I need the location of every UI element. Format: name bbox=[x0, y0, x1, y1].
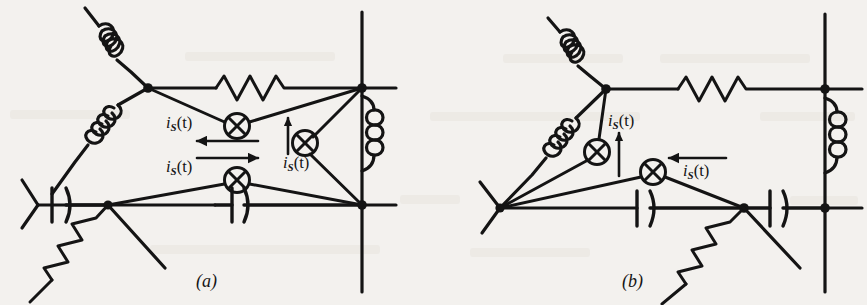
panel-b-bottom-right-lead bbox=[744, 208, 800, 268]
panel-b-current-label-upper: iS(t) bbox=[608, 113, 634, 131]
panel-a-current-label-lower-left: iS(t) bbox=[166, 159, 192, 177]
panel-a-top-resistor bbox=[216, 76, 362, 100]
junction-dot bbox=[820, 84, 830, 94]
junction-dot bbox=[820, 203, 830, 213]
panel-a-lower-left-inductor bbox=[52, 88, 148, 194]
panel-a-bottom-right-lead bbox=[108, 205, 165, 268]
panel-b-caption: (b) bbox=[622, 272, 643, 290]
panel-b-lower-left-inductor bbox=[500, 89, 606, 208]
panel-a-right-inductor bbox=[362, 96, 383, 171]
panel-b-bottom-resistor bbox=[662, 208, 744, 304]
panel-b-middle-capacitor bbox=[637, 191, 744, 226]
panel-b-upper-left-inductor bbox=[548, 18, 606, 89]
panel-b-top-resistor bbox=[678, 77, 825, 101]
circuit-figure: iS(t) iS(t) iS(t) (a) iS(t) iS(t) (b) bbox=[0, 0, 867, 305]
panel-b-right-inductor bbox=[825, 98, 846, 173]
panel-a-upper-left-inductor bbox=[85, 8, 148, 88]
circuit-schematic-svg bbox=[0, 0, 867, 305]
panel-a-bottom-resistor bbox=[30, 205, 108, 302]
panel-a-source-lower bbox=[108, 168, 362, 206]
panel-a-current-label-right: iS(t) bbox=[283, 155, 309, 173]
panel-b-current-label-right: iS(t) bbox=[683, 163, 709, 181]
panel-a-caption: (a) bbox=[196, 272, 217, 290]
panel-a-current-label-upper-left: iS(t) bbox=[166, 115, 192, 133]
